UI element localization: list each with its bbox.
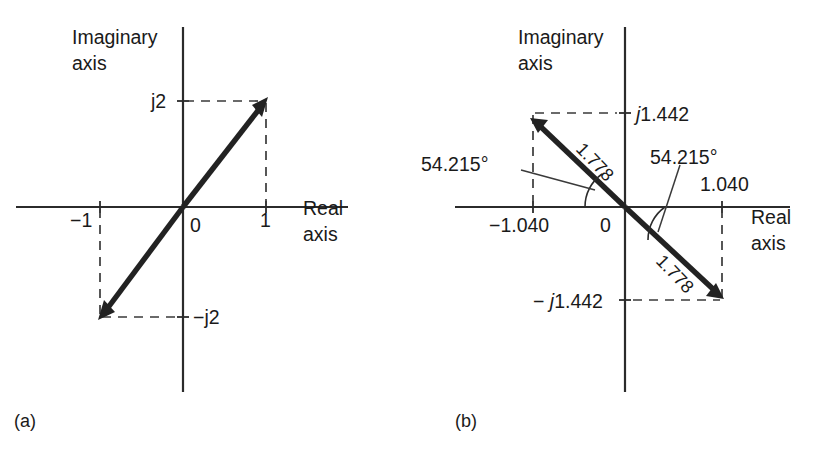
panel-b-imaginary-axis-label-line2: axis	[518, 52, 553, 74]
panel-b-tick-label-imag-negative: − j1.442	[533, 290, 603, 312]
panel-a-tick-label-real-negative: −1	[70, 209, 92, 231]
panel-b-imaginary-axis-label-line1: Imaginary	[518, 26, 604, 48]
panel-a-tick-label-real-positive: 1	[260, 209, 271, 231]
panel-b-real-axis-label-line2: axis	[751, 232, 786, 254]
panel-a-tick-label-imag-positive: j2	[150, 90, 166, 112]
panel-b-magnitude-label-lower: 1.778	[652, 251, 698, 297]
panel-b: 1.778 1.778 Imaginary axis Real axis 0 −…	[421, 26, 791, 431]
panel-b-imag-positive-number: 1.442	[640, 103, 689, 125]
panel-b-origin-label: 0	[600, 214, 611, 236]
panel-b-tick-label-imag-positive: j1.442	[633, 103, 689, 125]
panel-a-real-axis-label-line2: axis	[303, 223, 338, 245]
panel-b-angle-label-lower: 54.215°	[650, 146, 717, 168]
panel-a-origin-label: 0	[190, 214, 201, 236]
panel-b-angle-label-upper: 54.215°	[421, 153, 488, 175]
panel-a-caption: (a)	[14, 411, 36, 431]
panel-b-angle-leader-lower	[658, 165, 680, 232]
panel-b-tick-label-real-negative: −1.040	[489, 214, 549, 236]
figure-svg: Imaginary axis Real axis 0 −1 1 j2 −j2 (…	[0, 0, 819, 457]
panel-a-tick-label-imag-negative: −j2	[193, 306, 220, 328]
panel-a-imaginary-axis-label-line2: axis	[72, 52, 107, 74]
panel-a: Imaginary axis Real axis 0 −1 1 j2 −j2 (…	[14, 26, 348, 431]
panel-b-imag-negative-number: 1.442	[554, 290, 603, 312]
panel-b-angle-leader-upper	[521, 170, 595, 190]
panel-a-vector-upper	[183, 108, 260, 207]
complex-plane-figure: Imaginary axis Real axis 0 −1 1 j2 −j2 (…	[0, 0, 819, 457]
panel-b-imag-negative-sign: −	[533, 290, 550, 312]
panel-a-vector-lower	[107, 207, 183, 309]
panel-b-real-axis-label-line1: Real	[751, 206, 791, 228]
panel-a-real-axis-label-line1: Real	[303, 197, 343, 219]
panel-b-caption: (b)	[455, 411, 477, 431]
panel-a-imaginary-axis-label-line1: Imaginary	[72, 26, 158, 48]
panel-b-tick-label-real-positive: 1.040	[700, 173, 749, 195]
